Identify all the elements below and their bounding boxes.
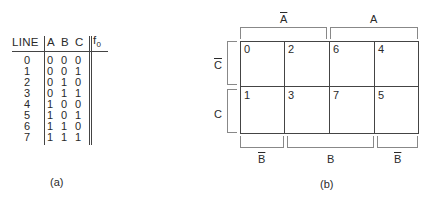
output-divider-1 <box>89 36 90 145</box>
header-f0: f0 <box>93 35 101 50</box>
kmap-cell: 3 <box>284 86 330 134</box>
header-line: LINE <box>12 37 39 48</box>
kmap-cell: 4 <box>374 41 419 87</box>
caption-a: (a) <box>50 176 63 188</box>
kmap-cell: 5 <box>374 86 419 134</box>
label-b: B <box>327 154 334 165</box>
label-c: C <box>214 109 222 120</box>
output-divider-2 <box>91 36 92 145</box>
bracket-c-bar <box>227 41 237 85</box>
bracket-b <box>287 136 374 148</box>
header-c: C <box>75 37 84 48</box>
label-b-bar-right: B <box>394 154 401 165</box>
kmap-cell: 6 <box>329 41 375 87</box>
label-b-bar-left: B <box>258 154 265 165</box>
header-divider <box>12 51 108 52</box>
bracket-b-bar-left <box>240 136 284 148</box>
line-column-divider <box>44 36 45 145</box>
label-c-bar: C <box>214 60 222 71</box>
kmap-cell: 1 <box>240 86 285 134</box>
row-a: 1 <box>47 132 53 143</box>
kmap-cell: 0 <box>240 41 285 87</box>
bracket-b-bar-right <box>377 136 418 148</box>
bracket-a-bar <box>240 27 327 39</box>
header-b: B <box>61 37 69 48</box>
row-c: 1 <box>75 132 81 143</box>
bracket-a <box>330 27 418 39</box>
bracket-c <box>227 89 237 133</box>
row-b: 1 <box>61 132 67 143</box>
header-a: A <box>47 37 55 48</box>
kmap-cell: 7 <box>329 86 375 134</box>
row-line: 7 <box>24 132 30 143</box>
caption-b: (b) <box>320 178 333 190</box>
label-a: A <box>370 14 377 25</box>
label-a-bar: A <box>280 14 287 25</box>
kmap-cell: 2 <box>284 41 330 87</box>
